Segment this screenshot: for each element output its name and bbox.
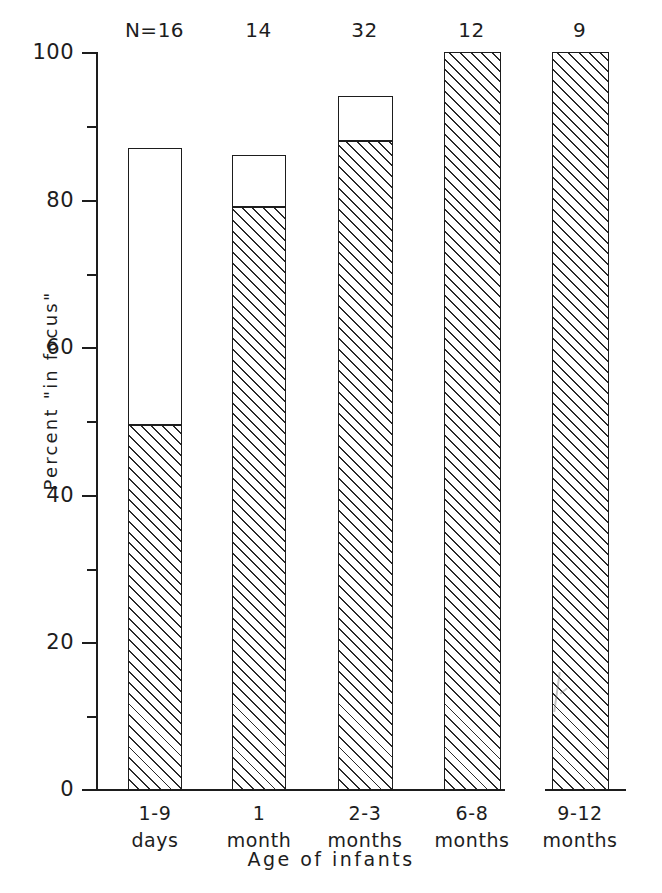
n-label-2: 14: [207, 18, 310, 42]
y-tick-80: [82, 200, 97, 202]
bar-segment-hatched-2: [232, 207, 286, 790]
bar-group-2: [232, 155, 286, 790]
x-category-label-3-line1: 2-3: [313, 800, 417, 827]
bar-segment-hatched-1: [128, 425, 182, 790]
x-category-label-5-line1: 9-12: [528, 800, 632, 827]
y-tick-100: [82, 52, 97, 54]
n-label-1: N=16: [103, 18, 206, 42]
x-category-label-4: 6-8 months: [420, 800, 524, 854]
x-category-label-2: 1 month: [207, 800, 311, 854]
x-category-label-3: 2-3 months: [313, 800, 417, 854]
bar-segment-open-3: [338, 96, 393, 141]
x-axis-baseline-break: [505, 787, 545, 791]
x-axis-title: Age of infants: [0, 848, 662, 870]
n-label-5: 9: [528, 18, 631, 42]
n-label-4: 12: [420, 18, 523, 42]
x-axis-line: [96, 789, 626, 791]
bar-chart: N=16 14 32 12 9 100 80 60 40 20 0 Percen…: [0, 0, 662, 893]
bar-group-5: [552, 52, 609, 790]
bar-segment-hatched-4: [444, 52, 501, 790]
y-tick-70: [87, 274, 97, 276]
y-tick-label-80: 80: [12, 188, 74, 212]
y-tick-90: [87, 126, 97, 128]
y-tick-label-100: 100: [12, 40, 74, 64]
bar-segment-open-1: [128, 148, 182, 425]
bar-segment-hatched-3: [338, 141, 393, 790]
n-label-3: 32: [313, 18, 416, 42]
y-tick-label-20: 20: [12, 630, 74, 654]
y-tick-30: [87, 569, 97, 571]
y-tick-20: [82, 642, 97, 644]
bar-group-1: [128, 148, 182, 790]
y-tick-40: [82, 495, 97, 497]
bar-group-4: [444, 52, 501, 790]
x-category-label-4-line1: 6-8: [420, 800, 524, 827]
y-tick-50: [87, 421, 97, 423]
y-tick-60: [82, 347, 97, 349]
bar-segment-open-2: [232, 155, 286, 207]
x-category-label-2-line1: 1: [207, 800, 311, 827]
y-tick-10: [87, 716, 97, 718]
y-tick-label-0: 0: [12, 777, 74, 801]
bar-group-3: [338, 96, 393, 790]
x-category-label-1-line1: 1-9: [103, 800, 207, 827]
y-tick-0: [82, 789, 97, 791]
x-category-label-5: 9-12 months: [528, 800, 632, 854]
x-category-label-1: 1-9 days: [103, 800, 207, 854]
bar-segment-hatched-5: [552, 52, 609, 790]
y-axis-title: Percent "in focus": [40, 261, 61, 521]
